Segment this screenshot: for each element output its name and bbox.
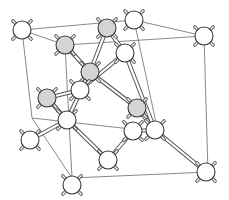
atom-interior [146,121,164,139]
atom-sphere [124,122,142,140]
atom-corner [21,131,39,149]
atom-face [124,122,142,140]
atom-interior [58,111,76,129]
atom-sphere [195,27,213,45]
atom-corner [13,21,31,39]
atom-sphere [197,163,215,181]
atom-sphere [58,111,76,129]
atom-sphere [98,19,116,37]
atom-sphere [128,99,146,117]
atom-sphere [21,131,39,149]
cube-edge [22,20,134,30]
cube-edge [204,36,208,172]
crystal-structure-diagram [0,0,229,200]
atom-interior [71,81,89,99]
bond-highlight [125,53,155,130]
atom-sphere [38,89,56,107]
atom-sphere [125,11,143,29]
atom-face [56,36,74,54]
atom-face [116,44,134,62]
atom-sphere [146,121,164,139]
atom-face [128,99,146,117]
cube-edge [134,20,204,36]
atom-sphere [116,44,134,62]
atom-face [98,19,116,37]
atom-interior [81,63,99,81]
atom-sphere [63,176,81,194]
atom-corner [125,11,143,29]
atom-sphere [71,81,89,99]
atom-corner [195,27,213,45]
atom-corner [63,176,81,194]
cube-edge [22,30,32,118]
diamond-cubic-unit-cell [0,0,229,200]
atom-sphere [56,36,74,54]
atom-sphere [99,151,117,169]
atom-sphere [13,21,31,39]
atom-face [99,151,117,169]
atom-sphere [81,63,99,81]
atom-corner [197,163,215,181]
cube-edge [72,172,208,178]
atom-face [38,89,56,107]
